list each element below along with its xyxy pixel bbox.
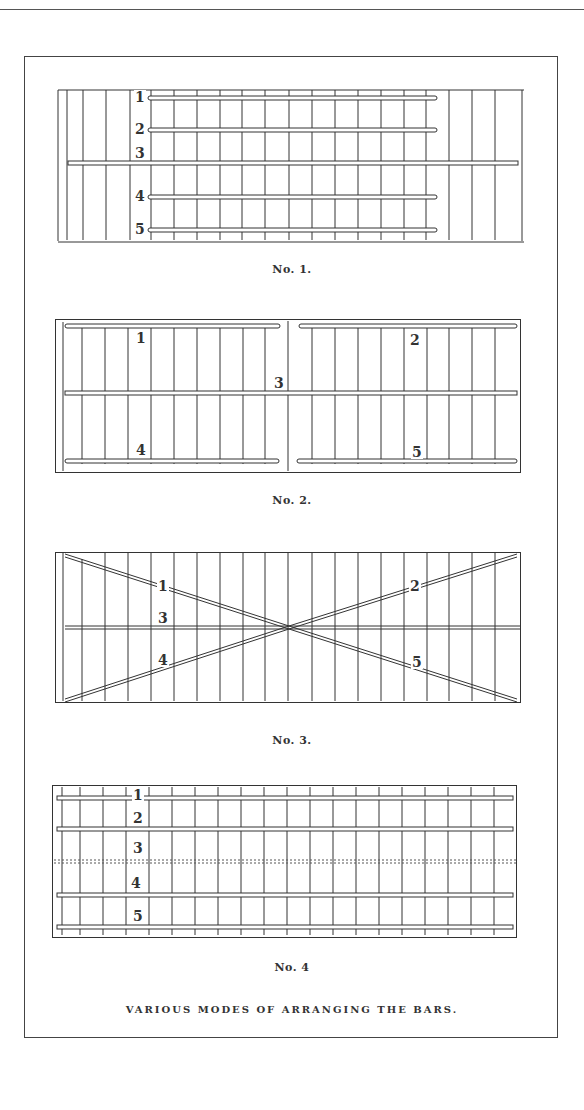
figure-3-label-5: 5 — [411, 655, 423, 669]
figure-3-label-4: 4 — [157, 653, 169, 667]
figure-1-drawing — [58, 88, 524, 246]
figure-2-label-5: 5 — [411, 445, 423, 459]
figure-1-label-4: 4 — [134, 189, 146, 203]
figure-4-label-2: 2 — [132, 811, 144, 825]
figure-1-label-2: 2 — [134, 122, 146, 136]
figure-2-label-2: 2 — [409, 333, 421, 347]
figure-1-label-1: 1 — [134, 90, 146, 104]
top-rule — [0, 9, 584, 10]
figure-2-label-1: 1 — [135, 331, 147, 345]
figure-1-label-5: 5 — [134, 222, 146, 236]
plate-title: VARIOUS MODES OF ARRANGING THE BARS. — [0, 1004, 584, 1015]
figure-4-label-5: 5 — [132, 909, 144, 923]
figure-3-label-3: 3 — [157, 611, 169, 625]
figure-4-caption: No. 4 — [0, 961, 584, 974]
figure-3-label-1: 1 — [157, 579, 169, 593]
figure-1: 1 2 3 4 5 — [58, 88, 524, 246]
figure-2-drawing — [55, 319, 523, 475]
figure-4-label-1: 1 — [132, 788, 144, 802]
figure-1-label-3: 3 — [134, 146, 146, 160]
figure-1-caption: No. 1. — [0, 263, 584, 276]
figure-4: 1 2 3 4 5 — [52, 783, 520, 943]
figure-3-label-2: 2 — [409, 579, 421, 593]
figure-2: 1 2 3 4 5 — [55, 319, 523, 475]
figure-3-caption: No. 3. — [0, 734, 584, 747]
figure-2-label-4: 4 — [135, 443, 147, 457]
figure-2-caption: No. 2. — [0, 494, 584, 507]
figure-4-label-4: 4 — [130, 876, 142, 890]
figure-4-label-3: 3 — [132, 841, 144, 855]
figure-3-drawing — [55, 549, 523, 705]
figure-2-label-3: 3 — [273, 376, 285, 390]
figure-4-drawing — [52, 783, 520, 943]
figure-3: 1 2 3 4 5 — [55, 549, 523, 705]
